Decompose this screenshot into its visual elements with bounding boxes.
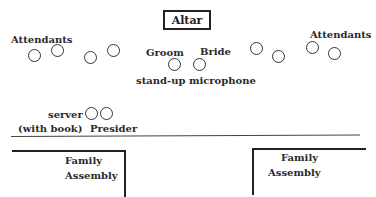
- server-position: [85, 107, 98, 120]
- family-right-side-edge: [252, 148, 254, 195]
- family-right-top-edge: [252, 148, 366, 150]
- family-left-side-edge: [124, 150, 126, 197]
- attendant-left-3: [84, 51, 97, 64]
- presider-label: Presider: [90, 124, 137, 134]
- attendants-right-label: Attendants: [310, 30, 371, 40]
- microphone-label: stand-up microphone: [136, 76, 256, 86]
- altar-label: Altar: [172, 14, 203, 27]
- groom-position: [168, 58, 181, 71]
- sanctuary-divider-line: [11, 134, 360, 137]
- attendant-left-4: [107, 44, 120, 57]
- attendant-right-2: [272, 50, 285, 63]
- bride-label: Bride: [200, 47, 231, 57]
- attendant-left-1: [28, 49, 41, 62]
- family-left-top-edge: [12, 150, 125, 152]
- bride-position: [193, 58, 206, 71]
- attendant-left-2: [51, 44, 64, 57]
- family-right-label-2: Assembly: [268, 168, 321, 178]
- family-right-label-1: Family: [281, 153, 318, 163]
- family-left-label-2: Assembly: [65, 171, 118, 181]
- groom-label: Groom: [146, 48, 184, 58]
- server-label: server: [48, 110, 83, 120]
- family-left-label-1: Family: [65, 156, 102, 166]
- attendant-right-3: [306, 41, 319, 54]
- presider-position: [100, 107, 113, 120]
- attendant-right-1: [250, 42, 263, 55]
- with-book-label: (with book): [18, 124, 83, 134]
- attendant-right-4: [328, 47, 341, 60]
- altar-box: Altar: [163, 10, 211, 30]
- attendants-left-label: Attendants: [11, 35, 72, 45]
